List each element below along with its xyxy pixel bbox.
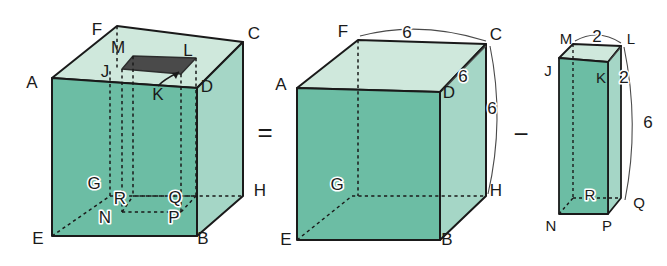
shape2-front-face	[297, 88, 440, 240]
shape2-label-A: A	[275, 75, 287, 94]
shape1-label-F: F	[92, 20, 102, 39]
shape3-label-K: K	[596, 69, 606, 86]
shape3-label-J: J	[544, 62, 552, 79]
shape2-label-H: H	[490, 181, 502, 200]
shape1-label-C: C	[248, 24, 260, 43]
shape1-label-N: N	[99, 208, 111, 227]
shape1-label-L: L	[183, 41, 192, 60]
shape2-label-B: B	[441, 230, 452, 249]
shape3-label-R: R	[585, 186, 596, 203]
operator-minus: −	[513, 119, 528, 149]
shape2-label-C: C	[490, 25, 502, 44]
shape3-label-L: L	[627, 30, 635, 47]
operator-equals: =	[257, 117, 272, 147]
shape1-label-D: D	[201, 77, 213, 96]
shape3-label-P: P	[602, 217, 612, 234]
shape1-label-H: H	[254, 181, 266, 200]
shape1-label-K: K	[152, 85, 164, 104]
shape2-label-F: F	[338, 22, 348, 41]
shape1-label-P: P	[168, 208, 179, 227]
shape3-label-N: N	[546, 217, 557, 234]
shape1-label-B: B	[197, 229, 208, 248]
shape2-dim-height: 6	[487, 99, 496, 118]
shape-3-removed-prism: 2 2 6 M L J K R Q N P	[544, 27, 652, 233]
shape1-label-J: J	[101, 62, 110, 81]
shape3-label-M: M	[560, 30, 573, 47]
geometry-diagram: A F C D M L J K G R Q N P H E B =	[0, 0, 667, 266]
shape3-dim-depth: 2	[619, 68, 628, 87]
shape3-dim-height: 6	[643, 113, 652, 132]
shape2-dim-top-width: 6	[402, 23, 411, 42]
shape3-label-Q: Q	[633, 194, 645, 211]
shape2-label-E: E	[280, 230, 291, 249]
shape1-label-R: R	[114, 189, 126, 208]
shape1-label-A: A	[26, 73, 38, 92]
shape1-label-Q: Q	[168, 188, 181, 207]
shape1-label-E: E	[32, 229, 43, 248]
shape-2-full-cube: 6 6 6 F C A D G H E B	[275, 22, 502, 249]
shape1-label-G: G	[87, 174, 100, 193]
shape3-dim-top-width: 2	[592, 27, 601, 46]
shape2-label-D: D	[443, 83, 455, 102]
shape1-label-M: M	[111, 38, 125, 57]
shape-1-solid-with-hole: A F C D M L J K G R Q N P H E B	[26, 20, 266, 248]
shape2-dim-depth: 6	[458, 67, 467, 86]
shape2-label-G: G	[330, 175, 343, 194]
